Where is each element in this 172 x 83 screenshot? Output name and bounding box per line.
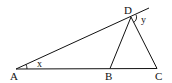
point-label-b: B	[105, 70, 112, 82]
angle-label-y: y	[141, 14, 146, 25]
angle-arc-y	[134, 15, 137, 23]
angle-label-x: x	[37, 58, 42, 69]
triangle-diagram: A B C D x y	[0, 0, 172, 83]
angle-arc-x	[26, 64, 27, 69]
point-label-d: D	[124, 4, 132, 16]
point-label-c: C	[155, 70, 162, 82]
point-label-a: A	[10, 70, 18, 82]
segment-ad-extended	[16, 8, 149, 69]
